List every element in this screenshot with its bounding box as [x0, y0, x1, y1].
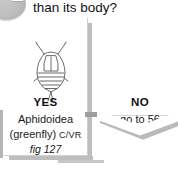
yes-code: C/VR — [59, 130, 81, 140]
yes-card-shadow-right — [88, 23, 92, 156]
yes-branch-card[interactable]: YES Aphidoidea (greenfly) C/VR fig 127 — [4, 18, 88, 156]
yes-taxon-name: Aphidoidea — [4, 113, 87, 125]
step-number: 22 — [12, 0, 23, 3]
yes-common-name-line: (greenfly) C/VR — [4, 128, 87, 140]
branch-connector — [85, 112, 97, 117]
aphid-illustration — [24, 40, 78, 102]
yes-figure-reference: fig 127 — [4, 143, 87, 155]
left-edge-rule — [0, 110, 3, 158]
yes-common-name: (greenfly) — [10, 128, 56, 140]
step-number-badge: 22 — [0, 0, 26, 20]
key-couplet-panel: YES Aphidoidea (greenfly) C/VR fig 127 — [0, 0, 178, 180]
yes-answer-label: YES — [4, 96, 87, 108]
bottom-shadow-sliver — [58, 160, 104, 163]
no-branch-card[interactable]: NO go to 56 — [97, 18, 178, 116]
no-answer-label: NO — [97, 96, 178, 108]
question-text: than its body? — [33, 0, 117, 15]
